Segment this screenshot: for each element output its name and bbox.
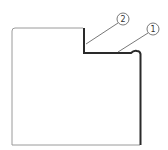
callout-2: 2 <box>117 13 129 25</box>
callout-1-label: 1 <box>150 25 155 34</box>
callout-2-leader <box>86 23 118 44</box>
profile-thick-edge <box>84 28 141 145</box>
callout-1: 1 <box>147 23 159 35</box>
profile-diagram: 2 1 <box>0 0 168 150</box>
callout-2-label: 2 <box>120 15 125 24</box>
callout-1-leader <box>118 33 148 52</box>
body-outline <box>12 28 140 145</box>
